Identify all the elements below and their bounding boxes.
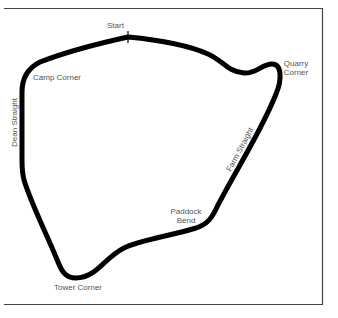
label-tower-corner: Tower Corner [54,283,102,292]
label-dean-straight: Dean Straight [10,96,19,150]
label-start: Start [107,21,124,30]
label-quarry-corner-line1: Quarry [280,59,312,68]
label-paddock-bend-line1: Paddock [168,207,204,216]
label-paddock-bend-line2: Bend [168,216,204,225]
label-quarry-corner-line2: Corner [280,68,312,77]
circuit-svg [0,0,338,318]
label-quarry-corner: Quarry Corner [280,59,312,77]
circuit-map: Start Camp Corner Quarry Corner Dean Str… [0,0,338,318]
label-camp-corner: Camp Corner [33,73,81,82]
label-paddock-bend: Paddock Bend [168,207,204,225]
